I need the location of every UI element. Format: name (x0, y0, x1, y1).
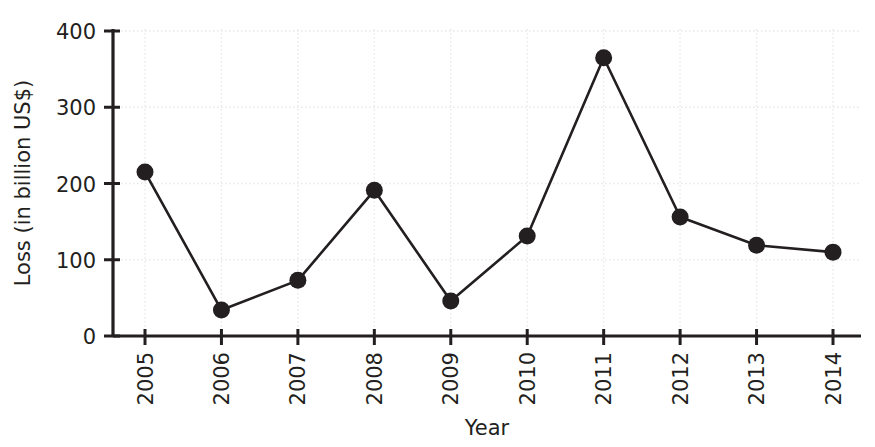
x-tick-label: 2013 (745, 352, 769, 405)
x-tick-label: 2011 (592, 352, 616, 405)
y-tick-label: 400 (56, 20, 96, 44)
x-tick-label: 2005 (134, 352, 158, 405)
x-tick-label: 2008 (363, 352, 387, 405)
chart-background (0, 0, 875, 447)
x-tick-label: 2007 (286, 352, 310, 405)
y-tick-label: 100 (56, 249, 96, 273)
y-tick-label: 200 (56, 173, 96, 197)
data-point-marker: 2011: 365 (595, 49, 612, 66)
data-point-marker: 2014: 110 (825, 244, 842, 261)
data-point-marker: 2009: 46 (442, 292, 459, 309)
x-tick-label: 2010 (516, 352, 540, 405)
data-point-marker: 2008: 191 (366, 182, 383, 199)
data-point-marker: 2013: 119 (748, 237, 765, 254)
y-tick-label: 300 (56, 96, 96, 120)
data-point-marker: 2005: 215 (137, 164, 154, 181)
chart-canvas: 2005: 2152006: 342007: 732008: 1912009: … (0, 0, 875, 447)
x-tick-label: 2014 (822, 352, 846, 405)
x-tick-label: 2012 (669, 352, 693, 405)
data-point-marker: 2010: 131 (519, 228, 536, 245)
data-point-marker: 2007: 73 (289, 272, 306, 289)
line-chart: 2005: 2152006: 342007: 732008: 1912009: … (0, 0, 875, 447)
x-axis-title: Year (464, 416, 510, 440)
x-tick-label: 2009 (439, 352, 463, 405)
x-tick-label: 2006 (210, 352, 234, 405)
data-point-marker: 2012: 156 (672, 209, 689, 226)
data-point-marker: 2006: 34 (213, 302, 230, 319)
y-tick-label: 0 (83, 325, 96, 349)
y-axis-title: Loss (in billion US$) (11, 80, 35, 287)
